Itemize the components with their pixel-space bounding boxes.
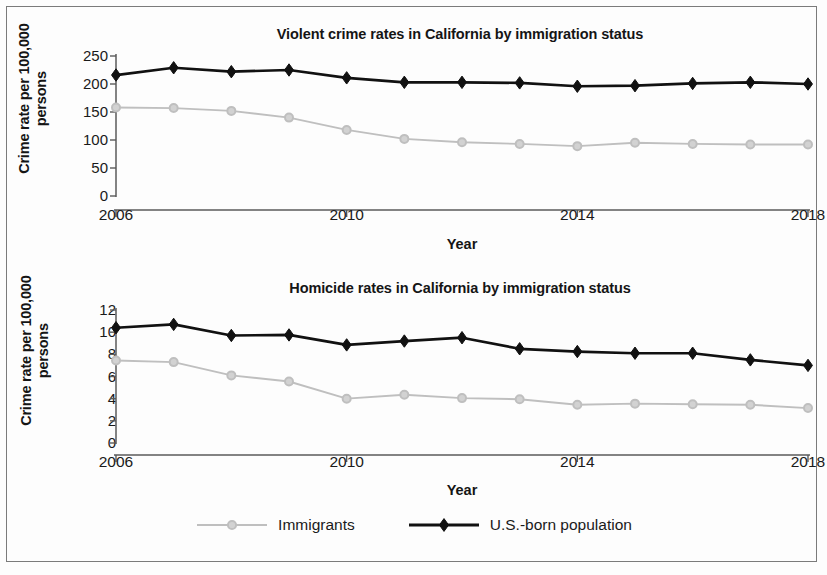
data-point-marker [458,76,467,88]
data-point-marker [227,329,236,341]
y-axis-tick-labels-homicide: 024681012 [70,310,116,443]
legend-entry-immigrants: Immigrants [195,516,355,534]
series-immigrants [112,356,812,412]
data-point-marker [746,354,755,366]
data-point-marker [170,358,178,366]
chart-title-homicide: Homicide rates in California by immigrat… [110,280,810,296]
plot-area-homicide [116,310,808,443]
y-axis-tick-labels-violent-crime: 050100150200250 [62,56,108,196]
x-axis-title-violent-crime: Year [116,236,808,252]
y-axis-title-line2: persons [33,14,50,184]
data-point-marker [227,107,235,115]
data-point-marker [804,359,813,371]
data-point-marker [573,142,581,150]
data-point-marker [516,140,524,148]
data-point-marker [343,126,351,134]
legend-entry-us-born: U.S.-born population [407,516,632,534]
data-point-marker [573,401,581,409]
data-point-marker [285,377,293,385]
plot-area-violent-crime [116,56,808,196]
x-tick-label: 2018 [773,453,827,471]
data-point-marker [112,104,120,112]
data-point-marker [746,401,754,409]
data-point-marker [458,332,467,344]
data-point-marker [227,65,236,77]
data-point-marker [573,80,582,92]
data-point-marker [285,329,294,341]
y-tick-label: 0 [100,188,108,203]
data-point-marker [688,347,697,359]
circle-marker-icon [195,516,269,534]
legend-label: U.S.-born population [490,516,632,534]
data-point-marker [400,335,409,347]
chart-panel-homicide: Homicide rates in California by immigrat… [0,272,827,507]
data-point-marker [169,318,178,330]
x-tick-label: 2014 [542,206,612,224]
chart-title-violent-crime: Violent crime rates in California by imm… [110,26,810,42]
data-point-marker [804,140,812,148]
data-point-marker [458,394,466,402]
x-axis-tick-labels-homicide: 2006201020142018 [116,453,808,475]
x-axis-tick-labels-violent-crime: 2006201020142018 [116,206,808,228]
chart-legend: ImmigrantsU.S.-born population [0,516,827,534]
x-tick-label: 2014 [542,453,612,471]
y-tick-label: 150 [83,104,108,119]
data-point-marker [804,78,813,90]
data-point-marker [689,140,697,148]
data-point-marker [689,400,697,408]
y-axis-title-line1: Crime rate per 100,000 [16,23,32,173]
legend-label: Immigrants [278,516,355,534]
series-us-born [112,62,813,93]
data-point-marker [516,395,524,403]
y-axis-title-line1: Crime rate per 100,000 [18,275,34,425]
y-axis-title-homicide: Crime rate per 100,000 persons [18,266,51,436]
data-point-marker [169,62,178,74]
data-point-marker [688,77,697,89]
data-point-marker [573,345,582,357]
data-point-marker [170,104,178,112]
figure-container: Violent crime rates in California by imm… [0,0,827,575]
x-tick-label: 2018 [773,206,827,224]
data-point-marker [515,343,524,355]
data-point-marker [227,371,235,379]
data-point-marker [631,139,639,147]
data-point-marker [631,347,640,359]
data-point-marker [112,356,120,364]
series-immigrants [112,104,812,151]
y-axis-title-line2: persons [35,266,52,436]
x-tick-label: 2006 [81,206,151,224]
data-point-marker [400,135,408,143]
y-tick-label: 50 [91,160,108,175]
data-point-marker [400,76,409,88]
data-point-marker [746,76,755,88]
y-axis-title-violent-crime: Crime rate per 100,000 persons [16,14,49,184]
data-point-marker [746,140,754,148]
data-point-marker [515,77,524,89]
x-tick-label: 2006 [81,453,151,471]
data-point-marker [631,79,640,91]
y-tick-label: 200 [83,76,108,91]
data-point-marker [342,339,351,351]
data-point-marker [631,400,639,408]
data-point-marker [458,138,466,146]
data-point-marker [112,69,121,81]
data-point-marker [804,404,812,412]
data-point-marker [342,72,351,84]
data-point-marker [285,64,294,76]
diamond-marker-icon [407,516,481,534]
x-axis-title-homicide: Year [116,482,808,498]
chart-panel-violent-crime: Violent crime rates in California by imm… [0,14,827,266]
x-tick-label: 2010 [312,453,382,471]
y-tick-label: 250 [83,48,108,63]
data-point-marker [400,391,408,399]
series-us-born [112,318,813,371]
y-tick-label: 100 [83,132,108,147]
data-point-marker [343,395,351,403]
x-tick-label: 2010 [312,206,382,224]
data-point-marker [285,114,293,122]
